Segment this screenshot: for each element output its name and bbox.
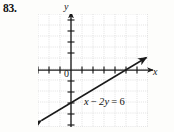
x-axis-label: x — [153, 66, 157, 77]
equation-term-2y: 2y — [99, 96, 109, 107]
equation-rhs: 6 — [119, 96, 124, 107]
coordinate-graph: y — [38, 14, 148, 127]
graph-line — [42, 58, 147, 121]
exercise-figure: 83. — [0, 0, 174, 132]
y-axis-label: y — [64, 1, 68, 12]
origin-label: 0 — [64, 68, 69, 79]
equation-label: x−2y=6 — [84, 96, 125, 107]
equation-equals: = — [111, 96, 117, 107]
problem-number: 83. — [3, 2, 17, 15]
equation-term-x: x — [84, 96, 89, 107]
plot-area — [38, 14, 162, 127]
equation-operator: − — [91, 96, 97, 107]
